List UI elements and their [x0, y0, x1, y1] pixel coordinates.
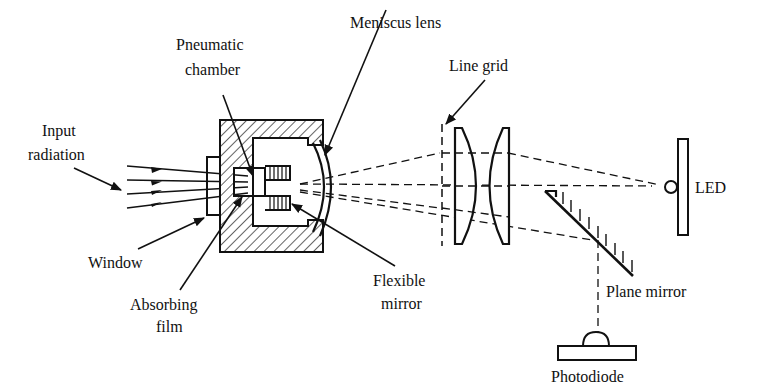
- label-flexible-mirror: Flexible: [373, 272, 425, 289]
- led: [665, 139, 688, 235]
- label-led: LED: [695, 179, 726, 196]
- condenser-lens-pair: [442, 128, 509, 244]
- label-plane-mirror: Plane mirror: [606, 283, 687, 300]
- label-flexible-mirror: mirror: [381, 295, 423, 312]
- window: [207, 157, 221, 215]
- golay-cell-diagram: Input radiation Pneumatic chamber Menisc…: [0, 0, 757, 392]
- pneumatic-chamber: [253, 166, 290, 210]
- label-meniscus-lens: Meniscus lens: [350, 14, 441, 31]
- label-absorbing-film: film: [156, 318, 183, 335]
- label-window: Window: [88, 254, 143, 271]
- label-pneumatic-chamber: Pneumatic: [176, 36, 244, 53]
- label-line-grid: Line grid: [449, 57, 508, 75]
- plane-mirror: [545, 191, 633, 276]
- label-photodiode: Photodiode: [551, 368, 624, 385]
- photodiode: [558, 332, 636, 360]
- label-pneumatic-chamber: chamber: [185, 61, 241, 78]
- label-input-radiation: radiation: [28, 146, 85, 163]
- label-absorbing-film: Absorbing: [130, 296, 198, 314]
- label-input-radiation: Input: [42, 122, 76, 140]
- pneumatic-cell-housing: [220, 120, 323, 252]
